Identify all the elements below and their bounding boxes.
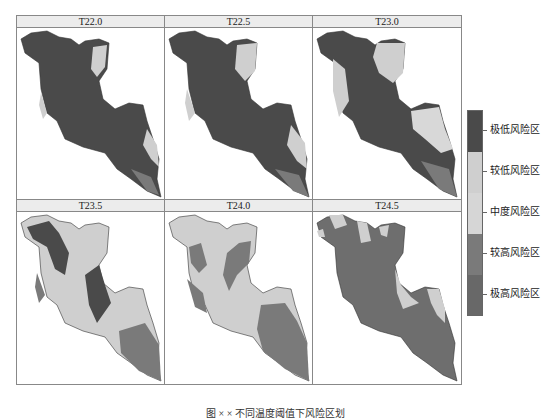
legend-tick — [483, 130, 487, 131]
choropleth-map — [19, 213, 163, 383]
legend-colorbar — [467, 110, 483, 316]
choropleth-map — [315, 29, 459, 199]
legend-label-medium: 中度风险区 — [490, 206, 540, 218]
panel-title: T24.5 — [313, 200, 461, 212]
map-grid: T22.0 T22.5 T23.0 T23.5 — [16, 15, 462, 385]
legend-tick — [483, 253, 487, 254]
choropleth-map — [167, 213, 311, 383]
choropleth-map — [315, 213, 459, 383]
choropleth-map — [19, 29, 163, 199]
legend-tick — [483, 212, 487, 213]
map-panel-t24-5: T24.5 — [313, 200, 461, 384]
legend-tick — [483, 294, 487, 295]
map-panel-t22-0: T22.0 — [17, 16, 165, 200]
map-panel-t23-5: T23.5 — [17, 200, 165, 384]
legend-swatch-high — [468, 234, 482, 275]
panel-title: T22.0 — [17, 16, 164, 28]
legend-tick — [483, 171, 487, 172]
legend-label-low: 较低风险区 — [490, 165, 540, 177]
map-panel-t23-0: T23.0 — [313, 16, 461, 200]
legend-swatch-low — [468, 152, 482, 193]
legend-label-very-low: 极低风险区 — [490, 124, 540, 136]
legend-swatch-very-low — [468, 111, 482, 152]
map-panel-t22-5: T22.5 — [165, 16, 313, 200]
panel-title: T23.5 — [17, 200, 164, 212]
panel-title: T24.0 — [165, 200, 312, 212]
legend-label-very-high: 极高风险区 — [490, 288, 540, 300]
figure-caption: 图 × × 不同温度阈值下风险区划 — [0, 405, 551, 420]
panel-title: T22.5 — [165, 16, 312, 28]
map-panel-t24-0: T24.0 — [165, 200, 313, 384]
legend-swatch-medium — [468, 193, 482, 234]
legend-swatch-very-high — [468, 275, 482, 315]
legend-label-high: 较高风险区 — [490, 247, 540, 259]
choropleth-map — [167, 29, 311, 199]
panel-title: T23.0 — [313, 16, 461, 28]
